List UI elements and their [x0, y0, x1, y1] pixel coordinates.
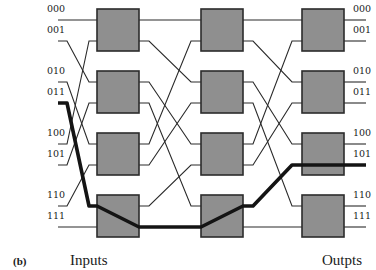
inputs-caption: Inputs — [70, 252, 108, 268]
stage1-shuffle-wires — [139, 20, 201, 227]
switch-box — [201, 9, 243, 51]
input-label: 011 — [47, 86, 65, 97]
switch-box — [201, 133, 243, 175]
switch-box — [97, 71, 139, 113]
omega-network-diagram: 000 001 010 011 100 101 110 111 000 001 … — [0, 0, 376, 270]
output-label: 101 — [353, 148, 371, 159]
stage-1-switches — [97, 9, 139, 237]
stage2-shuffle-wires — [243, 20, 302, 227]
switch-box — [97, 9, 139, 51]
output-label: 110 — [353, 189, 371, 200]
input-label: 101 — [47, 148, 65, 159]
output-label: 011 — [353, 86, 371, 97]
switch-box — [201, 71, 243, 113]
output-label: 000 — [353, 3, 371, 14]
output-label: 111 — [353, 210, 371, 221]
input-label: 111 — [47, 210, 65, 221]
stage-2-switches — [201, 9, 243, 237]
input-label: 110 — [47, 189, 65, 200]
stage-3-switches — [302, 9, 344, 237]
output-label: 001 — [353, 24, 371, 35]
input-label: 100 — [47, 127, 65, 138]
switch-box — [302, 195, 344, 237]
input-label: 001 — [47, 24, 65, 35]
input-label: 010 — [47, 65, 65, 76]
input-labels: 000 001 010 011 100 101 110 111 — [47, 3, 65, 221]
panel-label: (b) — [13, 255, 27, 268]
output-label: 100 — [353, 127, 371, 138]
switch-box — [97, 133, 139, 175]
outputs-caption: Outpts — [322, 252, 362, 268]
switch-box — [302, 9, 344, 51]
input-label: 000 — [47, 3, 65, 14]
switch-box — [302, 133, 344, 175]
switch-box — [302, 71, 344, 113]
output-label: 010 — [353, 65, 371, 76]
output-labels: 000 001 010 011 100 101 110 111 — [353, 3, 371, 221]
